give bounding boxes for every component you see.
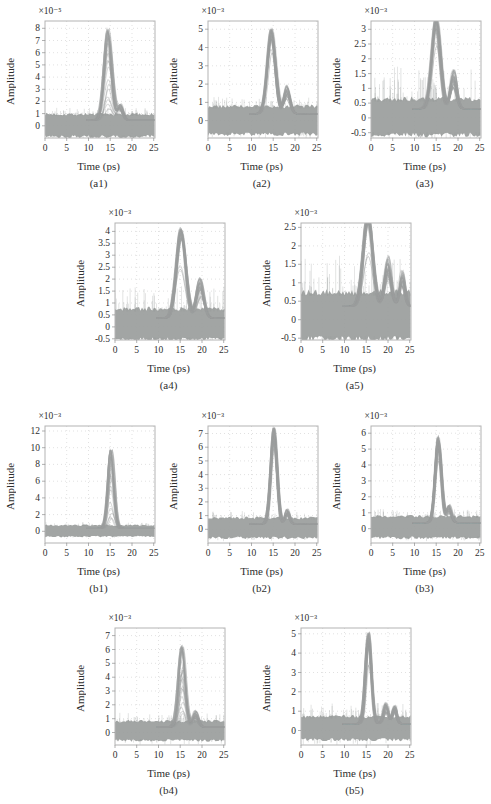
svg-text:25: 25 [218,345,228,355]
svg-text:5: 5 [198,456,203,466]
subplot-caption: (a1) [3,173,159,189]
svg-text:15: 15 [361,345,371,355]
svg-text:0.5: 0.5 [354,98,366,108]
svg-text:25: 25 [474,143,484,153]
svg-text:-0.5: -0.5 [350,128,365,138]
svg-text:10: 10 [246,143,256,153]
svg-text:0.5: 0.5 [284,297,296,307]
subplot-caption: (a2) [166,173,322,189]
svg-text:1: 1 [361,507,366,517]
y-axis-label: Amplitude [166,422,180,564]
plot-row: Amplitude 051015202501234567 [73,624,233,766]
svg-text:4: 4 [198,43,203,53]
svg-text:20: 20 [127,547,137,557]
svg-text:20: 20 [197,345,207,355]
subplot-b2: ×10⁻³ Amplitude 051015202501234567 Time … [166,410,326,594]
svg-text:25: 25 [148,547,158,557]
subplot-a4: ×10⁻³ Amplitude 0510152025-0.500.511.522… [73,207,233,391]
svg-text:6: 6 [105,644,110,654]
svg-text:10: 10 [30,442,40,452]
svg-text:2: 2 [105,274,110,284]
svg-text:0: 0 [112,749,117,759]
svg-text:0: 0 [205,143,210,153]
y-axis-label: Amplitude [329,422,343,564]
svg-text:0: 0 [42,143,47,153]
figure-row-1: ×10⁻⁵ Amplitude 0510152025012345678 Time… [2,5,489,189]
svg-text:15: 15 [105,547,115,557]
plot-canvas: 0510152025012345678 [17,17,163,159]
svg-text:6: 6 [35,476,40,486]
subplot-caption: (b4) [73,780,229,796]
svg-text:1: 1 [105,714,110,724]
svg-text:0: 0 [105,727,110,737]
svg-text:3: 3 [105,686,110,696]
svg-text:5: 5 [361,444,366,454]
svg-text:25: 25 [218,749,228,759]
svg-text:4: 4 [105,672,110,682]
y-scale-exponent: ×10⁻³ [329,5,489,17]
svg-text:-0.5: -0.5 [280,334,295,344]
svg-text:0: 0 [298,749,303,759]
svg-text:25: 25 [474,547,484,557]
subplot-a3: ×10⁻³ Amplitude 0510152025-0.500.511.522… [329,5,489,189]
svg-text:25: 25 [311,143,321,153]
svg-text:0: 0 [35,121,40,131]
svg-text:10: 10 [83,547,93,557]
svg-text:10: 10 [83,143,93,153]
svg-text:2: 2 [105,700,110,710]
svg-text:5: 5 [227,547,232,557]
svg-text:2: 2 [198,497,203,507]
svg-text:1.5: 1.5 [284,260,296,270]
svg-text:4: 4 [198,469,203,479]
subplot-caption: (a3) [329,173,485,189]
svg-text:-0.5: -0.5 [94,334,109,344]
x-axis-label: Time (ps) [329,564,485,578]
svg-text:0: 0 [198,116,203,126]
svg-text:0: 0 [368,143,373,153]
x-axis-label: Time (ps) [259,361,415,375]
y-axis-label: Amplitude [73,219,87,361]
plot-canvas: 051015202501234567 [180,422,326,564]
svg-text:25: 25 [311,547,321,557]
svg-text:2.5: 2.5 [98,263,110,273]
svg-text:5: 5 [320,345,325,355]
y-axis-label: Amplitude [3,17,17,159]
svg-text:20: 20 [383,749,393,759]
svg-text:7: 7 [105,631,110,641]
svg-text:4: 4 [105,227,110,237]
y-axis-label: Amplitude [259,219,273,361]
svg-text:10: 10 [339,749,349,759]
svg-text:1: 1 [291,706,296,716]
subplot-caption: (b2) [166,578,322,594]
subplot-a5: ×10⁻³ Amplitude 0510152025-0.500.511.522… [259,207,419,391]
svg-text:0: 0 [361,523,366,533]
svg-text:5: 5 [105,658,110,668]
svg-text:3: 3 [198,61,203,71]
svg-text:0: 0 [105,322,110,332]
svg-text:1: 1 [198,510,203,520]
y-scale-exponent: ×10⁻³ [166,5,326,17]
y-scale-exponent: ×10⁻³ [259,207,419,219]
plot-row: Amplitude 05101520250123456 [329,422,489,564]
y-axis-label: Amplitude [329,17,343,159]
y-axis-label: Amplitude [166,17,180,159]
x-axis-label: Time (ps) [3,564,159,578]
figure-row-4: ×10⁻³ Amplitude 051015202501234567 Time … [2,612,489,796]
svg-text:5: 5 [390,547,395,557]
plot-row: Amplitude 0510152025012345678 [3,17,163,159]
svg-text:10: 10 [339,345,349,355]
svg-text:5: 5 [134,345,139,355]
svg-text:25: 25 [404,345,414,355]
plot-canvas: 051015202501234567 [87,624,233,766]
svg-text:25: 25 [148,143,158,153]
svg-text:1: 1 [291,278,296,288]
y-scale-exponent: ×10⁻³ [3,410,163,422]
svg-text:0: 0 [112,345,117,355]
subplot-b5: ×10⁻³ Amplitude 0510152025012345 Time (p… [259,612,419,796]
x-axis-label: Time (ps) [73,361,229,375]
svg-text:3: 3 [105,251,110,261]
svg-text:0: 0 [205,547,210,557]
svg-text:4: 4 [35,493,40,503]
y-axis-label: Amplitude [259,624,273,766]
subplot-a1: ×10⁻⁵ Amplitude 0510152025012345678 Time… [3,5,163,189]
